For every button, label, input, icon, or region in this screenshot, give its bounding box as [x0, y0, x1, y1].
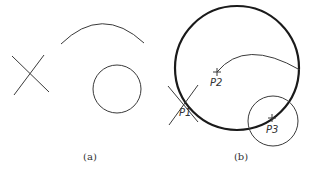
caption-b: (b)	[234, 151, 248, 162]
caption-a: (a)	[83, 151, 97, 162]
point-label-p2: P2	[210, 77, 222, 88]
arc	[217, 54, 300, 72]
cross-line-2	[169, 85, 198, 125]
diagram-canvas: (a) P1 P2 P3 (b)	[0, 0, 311, 173]
point-label-p3: P3	[266, 124, 278, 135]
tangent-circle	[175, 6, 299, 130]
point-label-p1: P1	[179, 107, 191, 118]
panel-b: P1 P2 P3 (b)	[168, 6, 300, 162]
cross-line-2	[14, 55, 44, 95]
circle	[93, 65, 141, 113]
cross-line-1	[12, 56, 49, 92]
small-circle	[248, 96, 298, 146]
arc	[61, 24, 144, 44]
panel-a: (a)	[12, 24, 144, 162]
